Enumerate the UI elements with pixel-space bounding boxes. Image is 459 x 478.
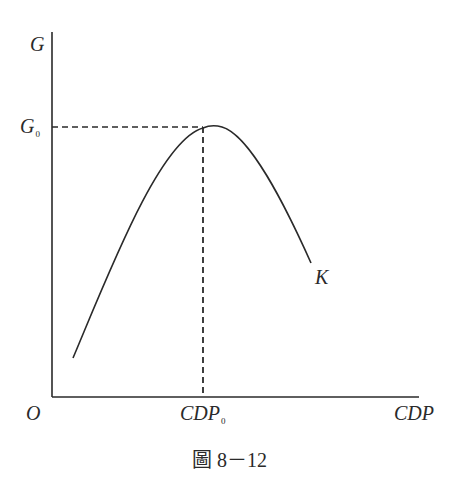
g0-label-main: G bbox=[20, 115, 34, 137]
k-curve bbox=[73, 126, 311, 358]
figure-caption: 圖 8－12 bbox=[0, 444, 459, 473]
y-axis-label: G bbox=[30, 34, 44, 54]
curve-k-label: K bbox=[315, 267, 328, 287]
g0-label: G0 bbox=[20, 116, 40, 139]
g0-label-sub: 0 bbox=[35, 129, 40, 139]
inverted-u-diagram bbox=[0, 0, 459, 478]
origin-label: O bbox=[26, 403, 40, 423]
x-axis-label: CDP bbox=[394, 403, 434, 423]
cdp0-label: CDP0 bbox=[180, 403, 226, 426]
cdp0-label-main: CDP bbox=[180, 402, 220, 424]
cdp0-label-sub: 0 bbox=[221, 416, 226, 426]
